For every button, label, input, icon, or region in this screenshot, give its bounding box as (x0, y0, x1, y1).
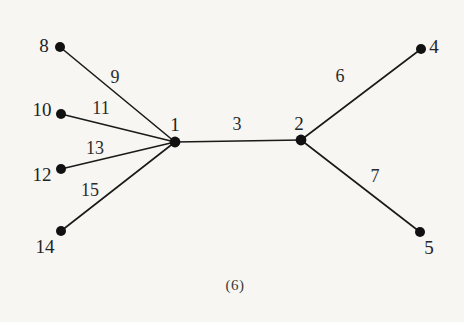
node-label-8: 8 (39, 36, 49, 55)
graph-node-4 (416, 44, 426, 54)
node-label-4: 4 (429, 37, 439, 56)
graph-svg (0, 0, 464, 322)
node-label-14: 14 (36, 237, 55, 256)
node-label-2: 2 (294, 114, 304, 133)
edge-label-11: 11 (92, 99, 109, 117)
graph-node-8 (55, 42, 65, 52)
edge-label-7: 7 (371, 167, 380, 185)
graph-node-5 (415, 227, 425, 237)
graph-node-14 (56, 226, 66, 236)
edge-label-9: 9 (111, 68, 120, 86)
figure-caption: (6) (226, 278, 245, 293)
edge-label-3: 3 (233, 115, 242, 133)
node-label-10: 10 (33, 100, 52, 119)
edge-label-6: 6 (336, 67, 345, 85)
figure-canvas: 911131536781012141245 (6) (0, 0, 464, 322)
graph-node-12 (56, 164, 66, 174)
graph-node-2 (296, 135, 307, 146)
graph-edge-2-5 (301, 140, 420, 232)
edge-label-15: 15 (81, 181, 99, 199)
graph-edge-2-4 (301, 49, 421, 140)
node-label-12: 12 (33, 165, 52, 184)
graph-node-1 (170, 137, 181, 148)
graph-edge-1-2 (175, 140, 301, 142)
edge-label-13: 13 (86, 139, 104, 157)
node-label-1: 1 (170, 115, 180, 134)
graph-node-10 (56, 109, 66, 119)
node-label-5: 5 (424, 238, 434, 257)
